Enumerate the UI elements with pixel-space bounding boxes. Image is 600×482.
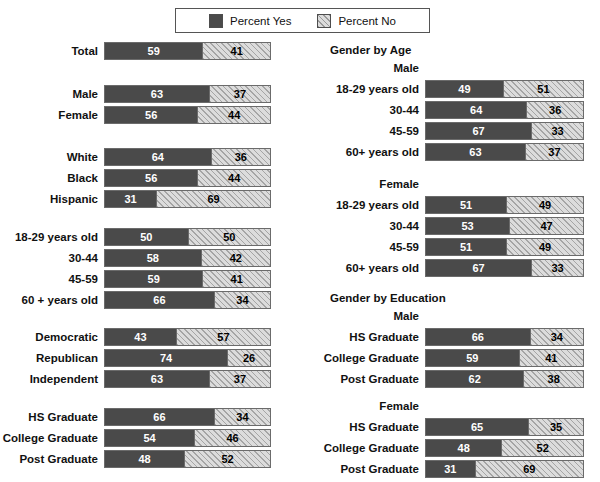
- bar-segment-percent-no: 49: [506, 197, 583, 213]
- bar-row-label: Total: [0, 45, 104, 57]
- legend-entry-percent-yes: Percent Yes: [209, 14, 291, 28]
- bar-segment-percent-yes: 48: [426, 440, 501, 456]
- bar-row-label: 18-29 years old: [0, 231, 104, 243]
- solid-dark-swatch-icon: [209, 14, 223, 28]
- stacked-bar: 6337: [425, 143, 584, 161]
- bar-segment-percent-yes: 43: [105, 329, 176, 345]
- bar-row-label: HS Graduate: [300, 331, 425, 343]
- bar-row-label: Black: [0, 172, 104, 184]
- bar-segment-percent-no: 37: [209, 86, 270, 102]
- stacked-bar: 4357: [104, 328, 271, 346]
- stacked-bar: 4852: [104, 450, 271, 468]
- bar-segment-percent-yes: 63: [105, 371, 209, 387]
- group-subheading-male: Male: [300, 62, 419, 74]
- bar-row: HS Graduate6535: [300, 418, 586, 436]
- bar-segment-percent-no: 52: [184, 451, 270, 467]
- bar-segment-percent-no: 34: [214, 409, 270, 425]
- bar-row: 18-29 years old5149: [300, 196, 586, 214]
- bar-row: College Graduate4852: [300, 439, 586, 457]
- bar-segment-percent-no: 35: [528, 419, 583, 435]
- bar-row-label: 60+ years old: [300, 146, 425, 158]
- bar-segment-percent-no: 34: [214, 292, 270, 308]
- bar-row-label: Post Graduate: [300, 463, 425, 475]
- stacked-bar: 6634: [425, 328, 584, 346]
- bar-segment-percent-no: 41: [519, 350, 583, 366]
- hatched-light-swatch-icon: [317, 14, 331, 28]
- bar-segment-percent-yes: 31: [426, 461, 475, 477]
- bar-row: College Graduate5941: [300, 349, 586, 367]
- bar-row-label: White: [0, 151, 104, 163]
- stacked-bar: 5941: [104, 270, 271, 288]
- bar-segment-percent-yes: 64: [426, 102, 526, 118]
- group-subheading-male: Male: [300, 310, 419, 322]
- bar-row-label: Hispanic: [0, 193, 104, 205]
- bar-row-label: 30-44: [300, 104, 425, 116]
- bar-row-label: 45-59: [300, 241, 425, 253]
- bar-segment-percent-no: 41: [202, 271, 270, 287]
- bar-row: HS Graduate6634: [300, 328, 586, 346]
- bar-row-label: Male: [0, 88, 104, 100]
- bar-segment-percent-yes: 63: [426, 144, 525, 160]
- stacked-bar: 6337: [104, 85, 271, 103]
- bar-row-label: HS Graduate: [300, 421, 425, 433]
- bar-segment-percent-yes: 54: [105, 430, 194, 446]
- bar-row: 45-595149: [300, 238, 586, 256]
- bar-segment-percent-yes: 31: [105, 191, 156, 207]
- bar-segment-percent-no: 33: [531, 260, 583, 276]
- bar-segment-percent-no: 57: [176, 329, 270, 345]
- bar-row: 45-596733: [300, 122, 586, 140]
- bar-segment-percent-no: 42: [201, 250, 270, 266]
- bar-segment-percent-no: 46: [194, 430, 270, 446]
- bar-segment-percent-no: 69: [156, 191, 270, 207]
- stacked-bar: 6733: [425, 122, 584, 140]
- bar-segment-percent-no: 51: [503, 81, 583, 97]
- bar-segment-percent-yes: 50: [105, 229, 188, 245]
- stacked-bar: 6436: [104, 148, 271, 166]
- bar-segment-percent-yes: 62: [426, 371, 523, 387]
- bar-row: Male6337: [0, 85, 272, 103]
- bar-row: White6436: [0, 148, 272, 166]
- bar-segment-percent-no: 38: [523, 371, 583, 387]
- group-subheading-female: Female: [300, 178, 419, 190]
- bar-segment-percent-yes: 59: [426, 350, 519, 366]
- stacked-bar: 3169: [425, 460, 584, 478]
- bar-row: 60 + years old6634: [0, 291, 272, 309]
- bar-segment-percent-yes: 51: [426, 197, 506, 213]
- stacked-bar: 4951: [425, 80, 584, 98]
- bar-segment-percent-no: 44: [197, 170, 270, 186]
- legend-label-percent-no: Percent No: [338, 15, 396, 27]
- bar-segment-percent-yes: 56: [105, 170, 197, 186]
- bar-segment-percent-yes: 51: [426, 239, 506, 255]
- stacked-bar: 6535: [425, 418, 584, 436]
- bar-segment-percent-no: 36: [211, 149, 270, 165]
- bar-row: Post Graduate6238: [300, 370, 586, 388]
- bar-row: Post Graduate4852: [0, 450, 272, 468]
- bar-segment-percent-no: 44: [197, 107, 270, 123]
- bar-segment-percent-no: 69: [475, 461, 583, 477]
- bar-row-label: Republican: [0, 352, 104, 364]
- stacked-bar: 6436: [425, 101, 584, 119]
- stacked-bar: 6634: [104, 291, 271, 309]
- bar-row-label: Female: [0, 109, 104, 121]
- bar-row-label: 45-59: [0, 273, 104, 285]
- bar-row-label: College Graduate: [300, 442, 425, 454]
- stacked-bar: 5149: [425, 196, 584, 214]
- stacked-bar: 5941: [104, 42, 271, 60]
- stacked-bar: 5347: [425, 217, 584, 235]
- legend-label-percent-yes: Percent Yes: [230, 15, 291, 27]
- bar-row: Black5644: [0, 169, 272, 187]
- bar-row: Post Graduate3169: [300, 460, 586, 478]
- bar-segment-percent-no: 52: [501, 440, 583, 456]
- stacked-bar: 6238: [425, 370, 584, 388]
- bar-row: 45-595941: [0, 270, 272, 288]
- bar-row-label: HS Graduate: [0, 411, 104, 423]
- bar-row-label: College Graduate: [0, 432, 104, 444]
- stacked-bar: 4852: [425, 439, 584, 457]
- stacked-bar: 6733: [425, 259, 584, 277]
- bar-segment-percent-yes: 59: [105, 271, 202, 287]
- bar-row: Female5644: [0, 106, 272, 124]
- bar-row-label: Democratic: [0, 331, 104, 343]
- bar-row: HS Graduate6634: [0, 408, 272, 426]
- bar-segment-percent-yes: 48: [105, 451, 184, 467]
- stacked-bar: 5644: [104, 169, 271, 187]
